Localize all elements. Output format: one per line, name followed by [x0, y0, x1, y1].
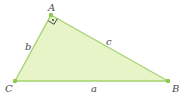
- triangle-diagram: A B C a b c: [0, 0, 187, 96]
- side-label-a: a: [91, 83, 97, 94]
- vertex-b: [166, 79, 170, 83]
- side-label-b: b: [25, 41, 31, 52]
- vertex-label-c: C: [5, 83, 13, 94]
- vertex-a: [49, 13, 53, 17]
- vertex-label-a: A: [47, 2, 55, 13]
- triangle-fill: [15, 15, 168, 81]
- side-label-c: c: [106, 36, 112, 47]
- vertex-label-b: B: [171, 83, 179, 94]
- vertex-c: [13, 79, 17, 83]
